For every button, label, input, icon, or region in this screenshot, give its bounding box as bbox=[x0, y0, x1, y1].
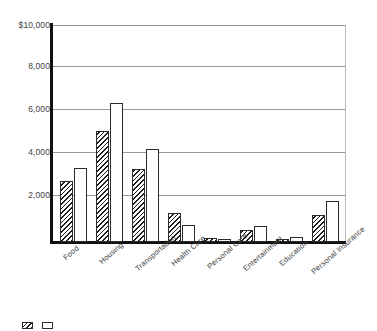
bar-transportation-series1 bbox=[132, 169, 145, 242]
y-tick-label-6000: 6,000 bbox=[4, 105, 50, 114]
legend-item-series1 bbox=[22, 322, 36, 329]
bar-group-entertainment bbox=[240, 25, 274, 242]
x-label-food: Food bbox=[62, 244, 81, 262]
bar-group-transportation bbox=[132, 25, 166, 242]
bar-group-housing bbox=[96, 25, 130, 242]
chart-legend bbox=[22, 322, 56, 331]
bar-housing-series1 bbox=[96, 131, 109, 242]
bar-entertainment-series2 bbox=[254, 226, 267, 242]
x-axis-category-labels: Food Housing Transportation Health Care … bbox=[0, 246, 377, 308]
y-tick-label-2000: 2,000 bbox=[4, 191, 50, 200]
legend-item-series2 bbox=[42, 322, 56, 329]
bar-personal-insurance-series2 bbox=[326, 201, 339, 242]
bar-group-personal-care bbox=[204, 25, 238, 242]
bar-group-food bbox=[60, 25, 94, 242]
y-tick-label-10000: $10,000 bbox=[4, 21, 50, 30]
y-tick-label-4000: 4,000 bbox=[4, 148, 50, 157]
y-tick-label-8000: 8,000 bbox=[4, 62, 50, 71]
bar-group-personal-insurance bbox=[312, 25, 346, 242]
bar-group-education bbox=[276, 25, 310, 242]
bar-group-health-care bbox=[168, 25, 202, 242]
bar-groups bbox=[52, 25, 346, 242]
bar-personal-insurance-series1 bbox=[312, 215, 325, 242]
bar-chart: $10,000 8,000 6,000 4,000 2,000 bbox=[0, 0, 377, 331]
legend-swatch-plain-icon bbox=[42, 322, 53, 329]
x-label-housing: Housing bbox=[98, 241, 125, 266]
bar-personal-care-series2 bbox=[218, 239, 231, 242]
bar-housing-series2 bbox=[110, 103, 123, 242]
bar-food-series2 bbox=[74, 168, 87, 242]
bar-transportation-series2 bbox=[146, 149, 159, 242]
legend-swatch-hatched-icon bbox=[22, 322, 33, 329]
bar-food-series1 bbox=[60, 181, 73, 242]
